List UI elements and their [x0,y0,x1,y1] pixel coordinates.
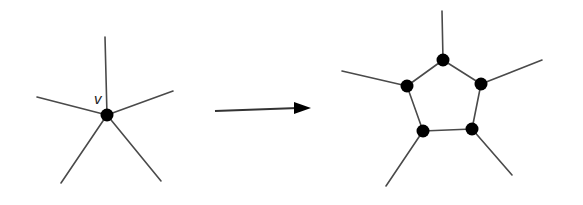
cycle-vertex-right [475,78,488,91]
star-edge [105,37,107,115]
transformation-arrow [215,102,311,114]
vertex-label-v: v [94,90,103,107]
star-edge [61,115,107,183]
pendant-edge-bottom-right [472,129,512,175]
cycle-vertex-top [437,54,450,67]
cycle-graph-after [342,11,542,186]
star-edge [107,115,161,181]
star-edge [107,91,173,115]
pendant-edge-top [442,11,443,60]
cycle-vertex-bottom-right [466,123,479,136]
arrow-head-icon [294,102,311,114]
pendant-edge-bottom-left [386,131,423,186]
cycle-vertex-left [401,80,414,93]
cycle-edge [423,129,472,131]
pendant-edge-left [342,71,407,86]
arrow-shaft [215,108,298,111]
cycle-edge [407,60,443,86]
cycle-edge [443,60,481,84]
diagram-canvas: v [0,0,583,205]
star-graph-before [37,37,173,183]
cycle-edge [407,86,423,131]
vertex-v [101,109,114,122]
cycle-edge [472,84,481,129]
cycle-vertex-bottom-left [417,125,430,138]
pendant-edge-right [481,60,542,84]
